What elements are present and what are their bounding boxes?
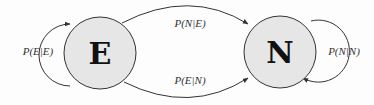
transition-n-to-e: P(E|N) [124, 74, 248, 98]
state-n-label: N [266, 35, 293, 70]
diagram-canvas: P(E|E) P(N|N) P(N|E) P(E|N) E N [0, 0, 374, 105]
transition-label-n-e: P(N|E) [173, 17, 205, 30]
transition-label-e-n: P(E|N) [173, 74, 205, 87]
transition-label-e-e: P(E|E) [22, 45, 54, 58]
transition-label-n-n: P(N|N) [327, 45, 360, 58]
markov-chain-diagram: P(E|E) P(N|N) P(N|E) P(E|N) E N [0, 0, 374, 105]
self-loop-e: P(E|E) [22, 24, 70, 86]
state-n: N [244, 16, 316, 88]
state-e-label: E [89, 36, 112, 71]
transition-e-to-n: P(N|E) [122, 6, 248, 30]
state-e: E [64, 17, 136, 89]
